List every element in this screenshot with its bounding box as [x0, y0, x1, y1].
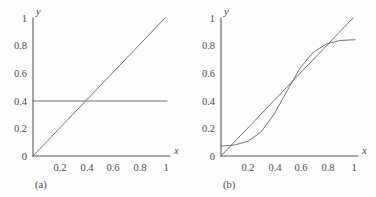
chart-panel-b: 1 0.8 0.6 0.4 0.2 0 0.2 0.4 0.6 0.8 1 y …	[188, 0, 376, 197]
x-tick-label: 0.8	[133, 162, 146, 173]
x-tick-label: 0.4	[80, 162, 94, 173]
y-tick-label: 0.6	[14, 68, 27, 79]
y-tick-label: 0.8	[14, 40, 27, 51]
y-tick-label: 0.4	[202, 96, 216, 107]
panel-caption-a: (a)	[35, 179, 47, 191]
sigmoid-curve-b	[221, 40, 355, 147]
y-tick-label: 0.8	[202, 40, 215, 51]
y-tick-label: 1	[22, 13, 27, 24]
x-tick-label: 0.2	[53, 162, 66, 173]
y-tick-label: 0	[22, 151, 27, 162]
x-tick-label: 0.8	[321, 162, 334, 173]
identity-line-b	[221, 18, 353, 156]
x-axis-label: x	[173, 145, 179, 156]
y-axis-label: y	[35, 6, 41, 17]
x-tick-label: 0.6	[106, 162, 119, 173]
x-tick-label: 0.4	[268, 162, 282, 173]
chart-svg-b: 1 0.8 0.6 0.4 0.2 0 0.2 0.4 0.6 0.8 1 y …	[188, 0, 376, 197]
x-tick-label: 0.6	[294, 162, 307, 173]
x-tick-label: 1	[163, 162, 168, 173]
figure-container: 1 0.8 0.6 0.4 0.2 0 0.2 0.4 0.6 0.8 1 y …	[0, 0, 376, 197]
y-tick-label: 0.2	[202, 123, 215, 134]
chart-panel-a: 1 0.8 0.6 0.4 0.2 0 0.2 0.4 0.6 0.8 1 y …	[0, 0, 188, 197]
y-axis-label: y	[223, 6, 229, 17]
identity-line-a	[33, 18, 165, 156]
panel-caption-b: (b)	[223, 179, 236, 191]
x-axis-label: x	[361, 145, 367, 156]
chart-svg-a: 1 0.8 0.6 0.4 0.2 0 0.2 0.4 0.6 0.8 1 y …	[0, 0, 188, 197]
y-tick-label: 0	[210, 151, 215, 162]
y-tick-label: 0.4	[14, 96, 28, 107]
y-tick-label: 1	[210, 13, 215, 24]
x-tick-label: 1	[351, 162, 356, 173]
y-tick-label: 0.2	[14, 123, 27, 134]
x-tick-label: 0.2	[241, 162, 254, 173]
y-tick-label: 0.6	[202, 68, 215, 79]
